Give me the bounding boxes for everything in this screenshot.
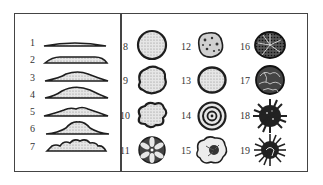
colony-16 [255,32,285,58]
profile-5 [44,108,108,117]
profile-7 [47,140,106,151]
profile-3 [45,72,108,81]
colony-14 [199,103,226,130]
profile-6 [46,122,109,134]
colony-17 [256,66,284,94]
colony-15 [197,137,227,163]
colony-18 [253,99,287,133]
profile-1 [44,43,106,46]
colony-12 [199,33,223,57]
profile-2 [45,57,107,63]
colony-8 [138,31,166,59]
colony-19 [254,134,286,166]
profile-4 [45,87,108,98]
colony-10 [139,103,167,127]
colony-13 [199,68,226,93]
colony-11 [139,137,165,163]
colony-illustrations [0,0,323,185]
colony-9 [139,67,166,94]
